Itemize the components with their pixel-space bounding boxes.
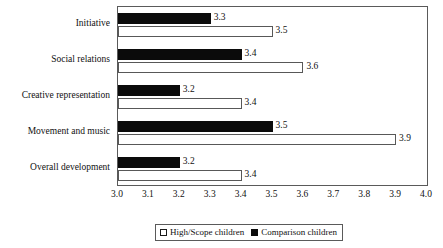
x-tick-label: 3.7: [327, 188, 339, 200]
category-label: Social relations: [0, 54, 110, 65]
category-label: Initiative: [0, 18, 110, 29]
category-label: Movement and music: [0, 126, 110, 137]
bar-highscope: [118, 170, 242, 181]
bar-highscope: [118, 26, 273, 37]
category-axis-labels: InitiativeSocial relationsCreative repre…: [0, 0, 114, 186]
bar-value-label: 3.6: [303, 61, 318, 72]
x-tick-label: 3.4: [235, 188, 247, 200]
x-tick-label: 3.6: [296, 188, 308, 200]
legend-entry: High/Scope children: [160, 227, 244, 238]
x-tick-label: 3.8: [358, 188, 370, 200]
bar-value-label: 3.4: [242, 48, 257, 59]
bar-highscope: [118, 134, 396, 145]
bar-comparison: [118, 157, 180, 168]
bar-value-label: 3.4: [242, 97, 257, 108]
bar-value-label: 3.3: [211, 12, 226, 23]
category-label: Overall development: [0, 162, 110, 173]
legend-label: High/Scope children: [170, 227, 244, 238]
bar-value-label: 3.5: [273, 25, 288, 36]
bar-comparison: [118, 85, 180, 96]
legend-label: Comparison children: [261, 227, 337, 238]
bar-value-label: 3.4: [242, 169, 257, 180]
bar-chart: InitiativeSocial relationsCreative repre…: [0, 0, 443, 248]
x-tick-label: 3.5: [266, 188, 278, 200]
plot-area: 3.33.53.43.63.23.43.53.93.23.4: [117, 6, 428, 186]
bar-value-label: 3.2: [180, 84, 195, 95]
legend-entry: Comparison children: [251, 227, 337, 238]
category-label: Creative representation: [0, 90, 110, 101]
bar-highscope: [118, 98, 242, 109]
bar-value-label: 3.2: [180, 156, 195, 167]
x-tick-label: 3.0: [111, 188, 123, 200]
x-axis-tick-labels: 3.03.13.23.33.43.53.63.73.83.94.0: [117, 188, 428, 204]
x-tick-label: 3.1: [142, 188, 154, 200]
bar-comparison: [118, 121, 273, 132]
bar-value-label: 3.9: [396, 133, 411, 144]
x-tick-label: 3.2: [173, 188, 185, 200]
bar-value-label: 3.5: [273, 120, 288, 131]
bar-comparison: [118, 49, 242, 60]
x-tick-label: 4.0: [420, 188, 432, 200]
bar-highscope: [118, 62, 303, 73]
bar-comparison: [118, 13, 211, 24]
x-tick-label: 3.9: [389, 188, 401, 200]
chart-legend: High/Scope childrenComparison children: [155, 224, 343, 241]
x-tick-label: 3.3: [204, 188, 216, 200]
legend-swatch-icon: [251, 229, 258, 236]
legend-swatch-icon: [160, 229, 167, 236]
